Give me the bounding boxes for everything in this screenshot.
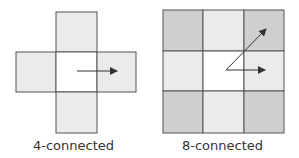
cell-up bbox=[203, 10, 244, 51]
cell-down bbox=[56, 92, 97, 133]
cell-right bbox=[244, 51, 284, 91]
cell-down bbox=[203, 91, 244, 133]
eight-connected-grid bbox=[163, 10, 284, 133]
connectivity-diagram bbox=[0, 0, 299, 158]
eight-connected-label: 8-connected bbox=[182, 138, 263, 153]
four-connected-label: 4-connected bbox=[33, 138, 114, 153]
cell-center bbox=[203, 51, 244, 91]
cell-center bbox=[56, 52, 97, 92]
cell-left bbox=[163, 51, 203, 91]
cell-down-left bbox=[163, 91, 203, 133]
four-connected-grid bbox=[16, 12, 136, 133]
cell-up bbox=[56, 12, 97, 52]
cell-down-right bbox=[244, 91, 284, 133]
cell-up-left bbox=[163, 10, 203, 51]
cell-right bbox=[97, 52, 136, 92]
cell-left bbox=[16, 52, 56, 92]
